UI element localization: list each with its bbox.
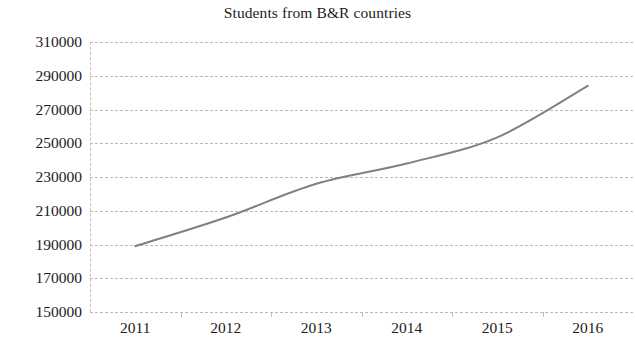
y-axis-tick-label: 270000 (2, 102, 82, 118)
x-axis-tick-label: 2012 (181, 318, 271, 338)
x-axis-tick (181, 312, 182, 317)
y-axis-tick-label: 190000 (2, 237, 82, 253)
x-axis-tick-label: 2014 (362, 318, 452, 338)
x-axis-tick (271, 312, 272, 317)
data-series-line (90, 42, 633, 312)
y-axis-tick-label: 310000 (2, 34, 82, 50)
plot-area (90, 42, 633, 312)
x-axis-tick-label: 2015 (452, 318, 542, 338)
y-axis-tick-label: 150000 (2, 304, 82, 320)
y-axis-tick-label: 250000 (2, 135, 82, 151)
chart-figure: Students from B&R countries 310000290000… (0, 0, 635, 344)
x-axis-tick-label: 2011 (90, 318, 180, 338)
x-axis-tick (543, 312, 544, 317)
chart-title: Students from B&R countries (0, 4, 635, 22)
x-axis-tick (452, 312, 453, 317)
x-axis-tick-label: 2013 (271, 318, 361, 338)
y-axis-tick-labels: 3100002900002700002500002300002100001900… (0, 42, 82, 312)
y-axis-tick-label: 170000 (2, 270, 82, 286)
y-axis-tick-label: 290000 (2, 68, 82, 84)
y-axis-tick-label: 210000 (2, 203, 82, 219)
x-axis-tick-labels: 201120122013201420152016 (90, 318, 633, 342)
series-path (135, 86, 588, 246)
x-axis-tick-label: 2016 (543, 318, 633, 338)
x-axis-tick (362, 312, 363, 317)
y-axis-tick-label: 230000 (2, 169, 82, 185)
